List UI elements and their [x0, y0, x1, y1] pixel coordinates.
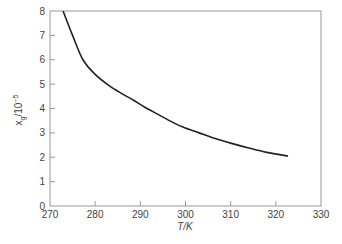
y-tick-label: 5: [39, 79, 45, 90]
x-axis-label: T/K: [177, 221, 194, 232]
x-tick-label: 320: [267, 209, 284, 220]
x-tick-label: 290: [132, 209, 149, 220]
x-tick-label: 300: [177, 209, 194, 220]
y-axis-label: xg/10−5: [12, 94, 27, 125]
y-tick-label: 3: [39, 127, 45, 138]
y-tick-label: 2: [39, 152, 45, 163]
y-axis-ticks: 012345678: [39, 6, 55, 212]
x-tick-label: 330: [313, 209, 330, 220]
y-tick-label: 4: [39, 103, 45, 114]
x-tick-label: 310: [222, 209, 239, 220]
y-tick-label: 7: [39, 30, 45, 41]
x-axis-ticks: 270280290300310320330: [42, 201, 330, 220]
y-tick-label: 0: [39, 201, 45, 212]
x-tick-label: 280: [87, 209, 104, 220]
plot-frame: [50, 11, 321, 206]
svg-text:xg/10−5: xg/10−5: [12, 94, 27, 125]
y-tick-label: 8: [39, 6, 45, 17]
y-tick-label: 1: [39, 176, 45, 187]
chart: 270280290300310320330 012345678 T/K xg/1…: [0, 0, 342, 244]
data-line: [63, 11, 288, 156]
y-tick-label: 6: [39, 54, 45, 65]
